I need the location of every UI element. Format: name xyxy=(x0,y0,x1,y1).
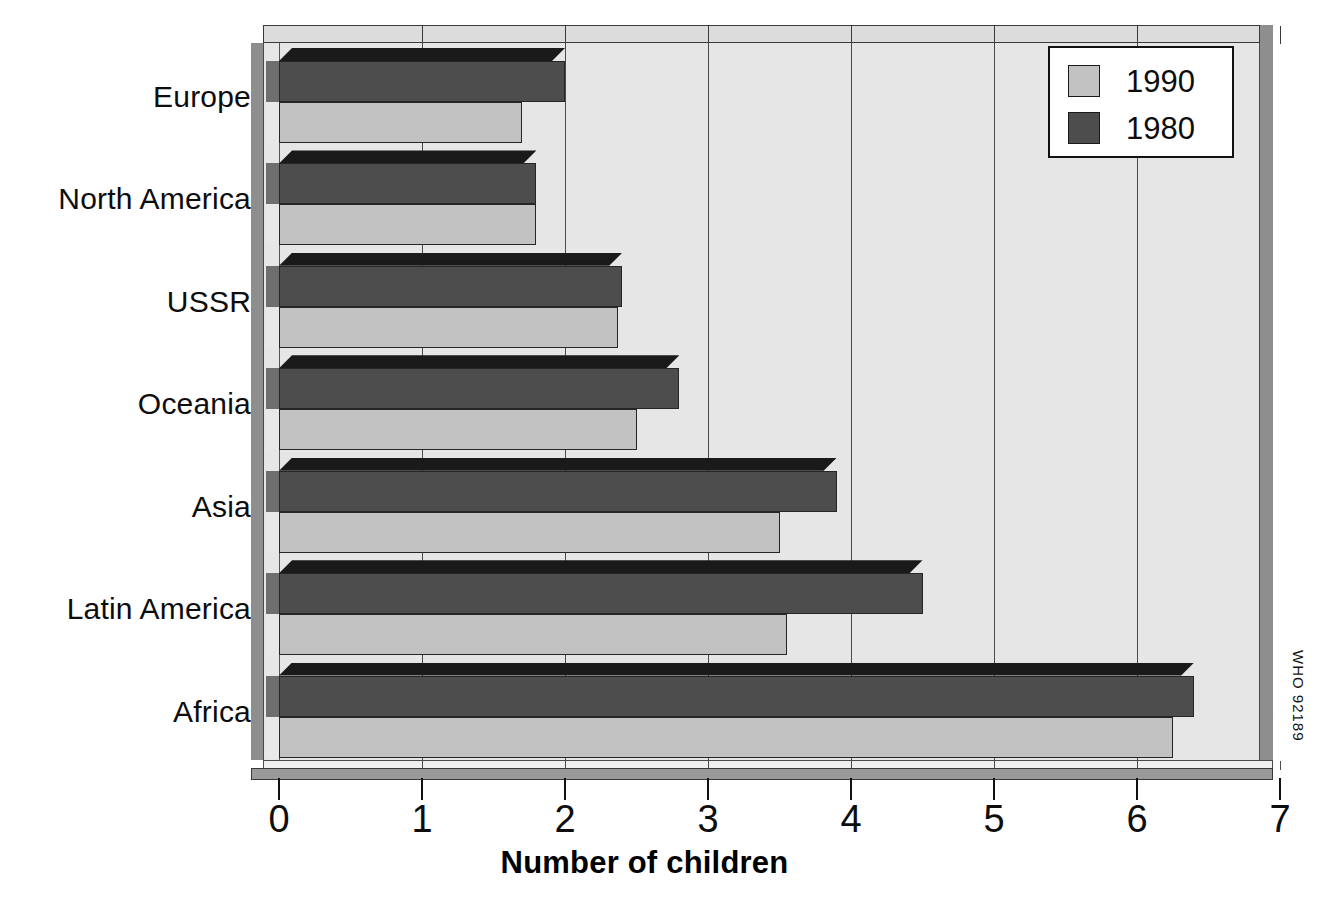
x-tick-4 xyxy=(850,778,852,800)
ceiling-tick xyxy=(565,26,566,44)
plot-left-wall-3d xyxy=(251,43,264,760)
category-label-oceania: Oceania xyxy=(138,389,251,419)
bar-africa-1980-side-face xyxy=(266,676,279,717)
legend-swatch-1990 xyxy=(1068,65,1100,97)
bar-latin-america-1990-side-face xyxy=(266,614,279,655)
bar-europe-1980[interactable] xyxy=(279,61,565,102)
bar-north-america-1980[interactable] xyxy=(279,163,536,204)
legend-label-1990: 1990 xyxy=(1126,66,1195,97)
plot-right-wall-3d xyxy=(1259,25,1273,760)
x-tick-5 xyxy=(993,778,995,800)
x-tick-label-1: 1 xyxy=(411,800,432,838)
bar-asia-1980-side-face xyxy=(266,471,279,512)
bar-latin-america-1980-side-face xyxy=(266,573,279,614)
x-axis-title-text: Number of children xyxy=(501,845,789,881)
x-tick-6 xyxy=(1136,778,1138,800)
x-tick-0 xyxy=(278,778,280,800)
category-label-ussr: USSR xyxy=(167,287,251,317)
ceiling-tick xyxy=(708,26,709,44)
bar-asia-1980[interactable] xyxy=(279,471,837,512)
x-tick-label-6: 6 xyxy=(1126,800,1147,838)
x-tick-label-5: 5 xyxy=(983,800,1004,838)
legend-item-1980[interactable]: 1980 xyxy=(1068,108,1195,148)
ceiling-tick xyxy=(851,26,852,44)
bar-africa-1980[interactable] xyxy=(279,676,1194,717)
bar-north-america-1980-top-face xyxy=(279,150,536,163)
category-label-asia: Asia xyxy=(192,492,251,522)
bar-europe-1990-side-face xyxy=(266,102,279,143)
bar-latin-america-1980-top-face xyxy=(279,560,923,573)
bar-ussr-1980-top-face xyxy=(279,253,622,266)
x-tick-label-2: 2 xyxy=(554,800,575,838)
ceiling-tick xyxy=(1280,26,1281,44)
bar-north-america-1990-side-face xyxy=(266,204,279,245)
floor-tick xyxy=(1280,761,1281,770)
plot-ceiling-3d xyxy=(263,25,1273,43)
bar-ussr-1990[interactable] xyxy=(279,307,618,348)
legend-label-1980: 1980 xyxy=(1126,113,1195,144)
bar-asia-1990[interactable] xyxy=(279,512,780,553)
bar-ussr-1980[interactable] xyxy=(279,266,622,307)
bar-europe-1980-top-face xyxy=(279,48,565,61)
bar-north-america-1980-side-face xyxy=(266,163,279,204)
legend: 1990 1980 xyxy=(1048,46,1234,158)
bar-north-america-1990[interactable] xyxy=(279,204,536,245)
bar-oceania-1980[interactable] xyxy=(279,368,679,409)
gridline xyxy=(851,43,852,760)
x-tick-label-0: 0 xyxy=(268,800,289,838)
plot-floor-front-3d xyxy=(251,768,1273,780)
gridline xyxy=(994,43,995,760)
bar-oceania-1990-side-face xyxy=(266,409,279,450)
ceiling-tick xyxy=(1137,26,1138,44)
bar-oceania-1980-side-face xyxy=(266,368,279,409)
bar-africa-1980-top-face xyxy=(279,663,1194,676)
x-tick-label-4: 4 xyxy=(840,800,861,838)
bar-ussr-1980-side-face xyxy=(266,266,279,307)
x-axis-title: Number of children xyxy=(0,845,1329,881)
legend-item-1990[interactable]: 1990 xyxy=(1068,61,1195,101)
bar-oceania-1990[interactable] xyxy=(279,409,637,450)
who-credit-label: WHO 92189 xyxy=(1290,650,1307,742)
x-tick-7 xyxy=(1279,778,1281,800)
category-label-north-america: North America xyxy=(58,184,251,214)
bar-latin-america-1990[interactable] xyxy=(279,614,787,655)
ceiling-tick xyxy=(994,26,995,44)
x-tick-label-3: 3 xyxy=(697,800,718,838)
x-tick-3 xyxy=(707,778,709,800)
bar-asia-1980-top-face xyxy=(279,458,837,471)
bar-africa-1990[interactable] xyxy=(279,717,1173,758)
bar-asia-1990-side-face xyxy=(266,512,279,553)
bar-europe-1980-side-face xyxy=(266,61,279,102)
ceiling-tick xyxy=(422,26,423,44)
legend-swatch-1980 xyxy=(1068,112,1100,144)
category-label-europe: Europe xyxy=(153,82,251,112)
bar-oceania-1980-top-face xyxy=(279,355,679,368)
bar-africa-1990-side-face xyxy=(266,717,279,758)
x-tick-2 xyxy=(564,778,566,800)
category-label-africa: Africa xyxy=(173,697,251,727)
bar-ussr-1990-side-face xyxy=(266,307,279,348)
chart-container: EuropeNorth AmericaUSSROceaniaAsiaLatin … xyxy=(0,0,1329,900)
x-tick-label-7: 7 xyxy=(1269,800,1290,838)
bar-europe-1990[interactable] xyxy=(279,102,522,143)
category-label-latin-america: Latin America xyxy=(67,594,251,624)
bar-latin-america-1980[interactable] xyxy=(279,573,923,614)
x-tick-1 xyxy=(421,778,423,800)
